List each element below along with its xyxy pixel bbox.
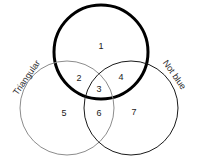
venn-set-label-left: Triangular xyxy=(11,58,42,97)
venn-region-labels-group: 1234567 xyxy=(61,41,136,118)
venn-diagram: TriangularNot blue 1234567 xyxy=(0,0,197,164)
venn-region-label-left-only: 5 xyxy=(61,108,66,118)
venn-canvas: TriangularNot blue 1234567 xyxy=(0,0,197,164)
venn-region-label-top-only: 1 xyxy=(98,41,103,51)
venn-region-label-top-right: 4 xyxy=(118,72,123,82)
venn-region-label-top-left: 2 xyxy=(76,73,81,83)
venn-region-label-triple-overlap: 3 xyxy=(96,84,101,94)
venn-circles-group xyxy=(20,5,178,155)
venn-region-label-right-only: 7 xyxy=(131,107,136,117)
venn-set-label-right: Not blue xyxy=(161,58,188,91)
venn-region-label-left-right: 6 xyxy=(96,108,101,118)
